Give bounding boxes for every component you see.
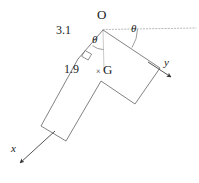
dimension-label-1-9: 1.9 [64, 63, 79, 75]
l-bracket-outline [41, 30, 160, 141]
axis-label-x: x [11, 143, 16, 154]
mechanics-figure: O 3.1 1.9 θ θ × G x y [0, 0, 199, 183]
figure-drawing [0, 0, 199, 183]
centroid-cross-marker: × [96, 68, 101, 76]
axis-label-y: y [164, 57, 169, 68]
theta-arc-inner [93, 46, 104, 50]
pivot-label-O: O [97, 8, 106, 21]
centroid-label-G: G [103, 63, 112, 76]
axis-x-line [20, 131, 55, 163]
dimension-label-3-1: 3.1 [56, 24, 71, 36]
right-angle-marker [82, 51, 92, 61]
dotted-horizontal-reference [103, 28, 196, 30]
theta-label-inner: θ [92, 34, 97, 45]
theta-label-top: θ [131, 23, 136, 34]
